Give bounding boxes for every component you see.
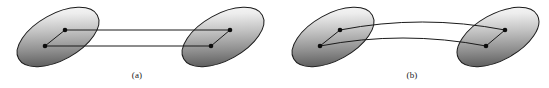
- figure-container: (a) (b): [0, 0, 549, 88]
- panel-b-caption: (b): [387, 70, 437, 80]
- figure-diagram: [0, 0, 549, 88]
- panel-b-right-blob: [447, 0, 548, 79]
- panel-b: [282, 0, 548, 79]
- panel-a-vertex-right-top: [228, 28, 233, 33]
- panel-b-vertex-left-bottom: [318, 44, 323, 49]
- panel-a-vertex-left-bottom: [43, 44, 48, 49]
- panel-a-caption: (a): [112, 70, 162, 80]
- panel-a: [7, 0, 273, 79]
- panel-b-vertex-left-top: [338, 28, 343, 33]
- panel-a-left-blob: [7, 0, 108, 79]
- panel-a-right-blob: [172, 0, 273, 79]
- panel-a-vertex-right-bottom: [209, 44, 214, 49]
- panel-a-vertex-left-top: [63, 28, 68, 33]
- panel-b-vertex-right-bottom: [484, 44, 489, 49]
- panel-b-vertex-right-top: [503, 28, 508, 33]
